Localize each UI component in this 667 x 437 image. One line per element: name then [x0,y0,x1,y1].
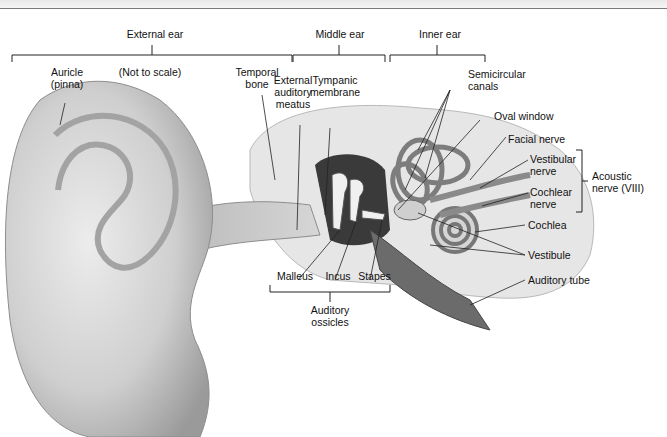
vestibule-shape [394,200,426,220]
label-cochlear-nerve: Cochlear nerve [530,186,590,210]
label-facial-nerve: Facial nerve [508,133,598,145]
label-cochlea: Cochlea [528,219,608,231]
label-auditory-ossicles: Auditory ossicles [295,304,365,328]
label-external-ear: External ear [115,28,195,40]
label-auditory-tube: Auditory tube [528,274,618,286]
label-inner-ear: Inner ear [400,28,480,40]
label-tympanic-membrane: Tympanic membrane [300,74,370,98]
label-stapes: Stapes [352,270,397,282]
label-malleus: Malleus [270,270,320,282]
label-acoustic-nerve: Acoustic nerve (VIII) [592,170,667,194]
label-oval-window: Oval window [494,110,584,122]
label-vestibule: Vestibule [528,249,608,261]
label-semicircular-canals: Semicircular canals [468,68,558,92]
label-auricle: Auricle (pinna) [32,66,102,90]
cochlea-shape [433,208,477,252]
label-vestibular-nerve: Vestibular nerve [530,153,590,177]
label-not-to-scale: (Not to scale) [100,66,200,78]
label-middle-ear: Middle ear [300,28,380,40]
